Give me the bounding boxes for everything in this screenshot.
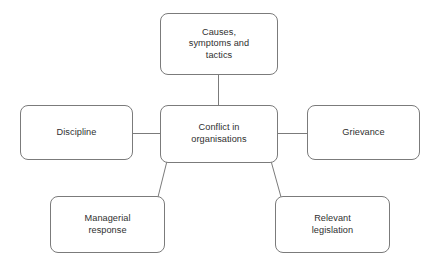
node-causes-symptoms-tactics[interactable]: Causes, symptoms and tactics [160,13,278,75]
node-discipline[interactable]: Discipline [20,105,133,160]
node-managerial-response[interactable]: Managerial response [50,196,165,253]
connector-center-to-bottomleft [158,161,167,197]
node-label: Conflict in organisations [186,122,251,145]
node-label: Causes, symptoms and tactics [184,27,254,62]
node-label: Grievance [337,127,389,139]
node-relevant-legislation[interactable]: Relevant legislation [275,196,390,253]
node-label: Managerial response [80,213,136,236]
concept-map-diagram: Causes, symptoms and tactics Discipline … [0,0,437,270]
node-conflict-in-organisations[interactable]: Conflict in organisations [160,105,278,163]
node-grievance[interactable]: Grievance [307,105,420,160]
node-label: Discipline [52,127,102,139]
node-label: Relevant legislation [307,213,358,236]
connector-center-to-bottomright [271,161,281,197]
